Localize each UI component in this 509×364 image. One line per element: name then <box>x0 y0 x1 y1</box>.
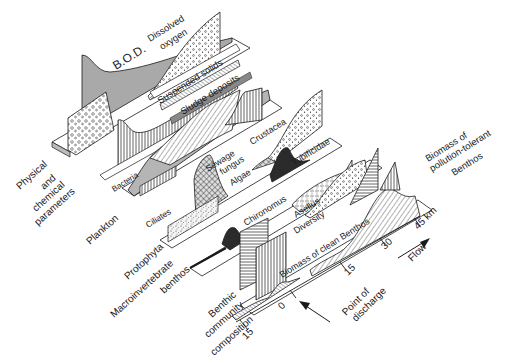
point-of-discharge-arrow[interactable] <box>299 301 330 322</box>
diagram-canvas: B.O.D. Dissolved oxygen Suspended solids… <box>0 0 509 364</box>
tick-0: 0 <box>276 299 288 311</box>
river-pollution-diagram: B.O.D. Dissolved oxygen Suspended solids… <box>0 0 509 364</box>
label-plankton: Plankton <box>84 212 120 246</box>
tick-15: 15 <box>342 261 358 277</box>
